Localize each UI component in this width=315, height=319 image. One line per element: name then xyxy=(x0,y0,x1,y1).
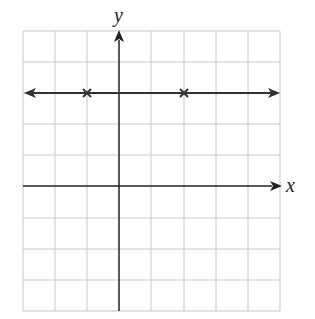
axes xyxy=(23,40,272,311)
grid xyxy=(23,31,280,311)
x-axis-label: x xyxy=(286,174,295,197)
y-axis-label: y xyxy=(114,4,123,27)
coordinate-plane xyxy=(0,0,315,319)
